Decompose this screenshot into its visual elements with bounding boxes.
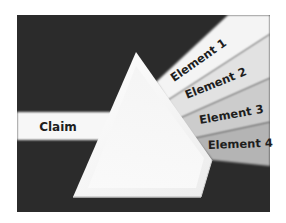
input-label: Claim: [39, 120, 77, 134]
output-label-4: Element 4: [208, 136, 274, 152]
prism-diagram: Claim Element 1 Element 2 Element 3 Elem…: [0, 0, 286, 223]
